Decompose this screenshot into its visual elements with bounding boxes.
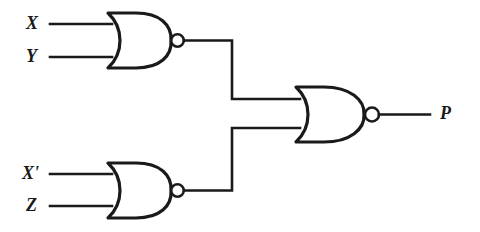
gate-top-body	[108, 13, 171, 68]
logic-circuit-diagram: X Y X' Z P	[0, 0, 480, 232]
input-label-y: Y	[26, 47, 37, 65]
wire-bottom-gate-to-output-gate	[184, 128, 300, 191]
input-label-x: X	[26, 14, 38, 32]
gate-top-inversion-bubble	[171, 34, 184, 47]
input-label-x-prime: X'	[22, 164, 39, 182]
output-label-p: P	[440, 104, 451, 122]
gate-bottom-body	[108, 163, 171, 218]
wire-top-gate-to-output-gate	[184, 41, 300, 100]
circuit-svg	[0, 0, 480, 232]
gate-output-inversion-bubble	[365, 108, 379, 122]
gate-output-body	[296, 87, 364, 142]
gate-bottom-inversion-bubble	[171, 184, 184, 197]
input-label-z: Z	[26, 196, 37, 214]
